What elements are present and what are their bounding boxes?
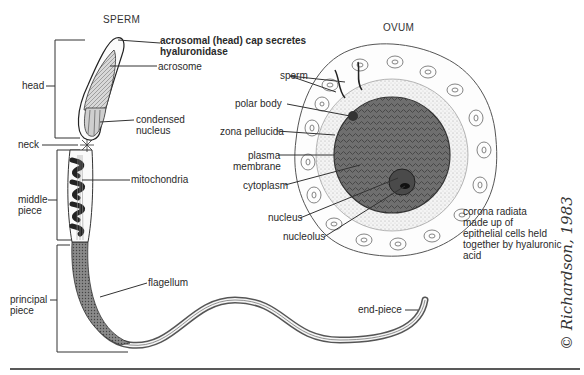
label-middle-piece-1: middle <box>18 194 47 205</box>
label-polar-body: polar body <box>235 98 282 109</box>
label-principal-piece-2: piece <box>10 305 34 316</box>
label-end-piece: end-piece <box>358 304 402 315</box>
label-acrosomal-cap-1: acrosomal (head) cap secretes <box>160 35 306 46</box>
label-head: head <box>22 80 44 91</box>
label-middle-piece-2: piece <box>18 205 42 216</box>
label-zona-pellucida: zona pellucida <box>220 126 284 137</box>
label-principal-piece-1: principal <box>10 294 47 305</box>
artist-signature: © Richardson, 1983 <box>558 196 576 350</box>
label-acrosome: acrosome <box>158 61 202 72</box>
label-condensed-nucleus-2: nucleus <box>136 125 170 136</box>
label-neck: neck <box>18 139 39 150</box>
label-sperm-ovum: sperm <box>280 70 308 81</box>
label-corona-radiata-1: corona radiata <box>463 206 527 217</box>
label-plasma-membrane-2: membrane <box>233 161 281 172</box>
diagram-canvas <box>0 0 584 375</box>
label-mitochondria: mitochondria <box>131 174 188 185</box>
label-acrosomal-cap-2: hyaluronidase <box>160 46 228 57</box>
label-cytoplasm: cytoplasm <box>243 180 288 191</box>
sperm-title: SPERM <box>103 14 140 25</box>
label-flagellum: flagellum <box>148 277 188 288</box>
label-corona-radiata-5: acid <box>463 250 481 261</box>
label-nucleus: nucleus <box>268 212 302 223</box>
ovum-title: OVUM <box>383 22 414 33</box>
label-condensed-nucleus-1: condensed <box>136 114 185 125</box>
label-plasma-membrane-1: plasma <box>248 150 280 161</box>
label-corona-radiata-4: together by hyaluronic <box>463 239 561 250</box>
label-corona-radiata-2: made up of <box>463 217 513 228</box>
label-nucleolus: nucleolus <box>283 231 325 242</box>
label-corona-radiata-3: epithelial cells held <box>463 228 547 239</box>
